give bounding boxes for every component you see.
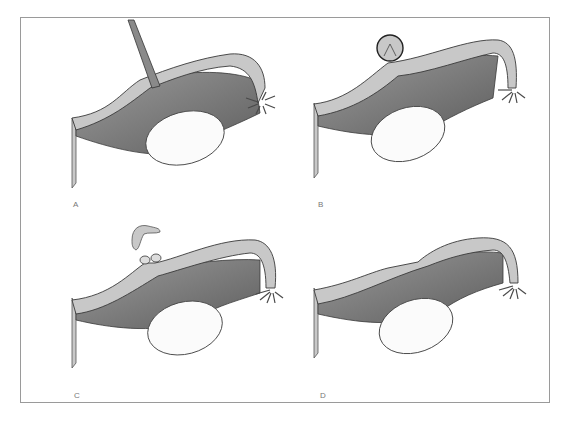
excised-segment-icon xyxy=(132,226,160,250)
tube-ovary-illustration-c xyxy=(60,218,290,388)
tube-ovary-illustration-a xyxy=(60,18,290,198)
panel-label-b: B xyxy=(318,200,323,209)
panel-d: D xyxy=(308,218,538,388)
ligature-loop-icon xyxy=(377,35,403,61)
panel-label-c: C xyxy=(74,391,80,400)
panel-a: A xyxy=(60,18,290,198)
panel-c: C xyxy=(60,218,290,388)
fimbria-icon xyxy=(498,90,525,103)
forceps-icon xyxy=(128,20,160,88)
tube-ovary-illustration-b xyxy=(308,18,538,198)
panel-b: B xyxy=(308,18,538,198)
panel-label-d: D xyxy=(320,391,326,400)
panel-label-a: A xyxy=(73,200,78,209)
fimbria-icon xyxy=(499,286,526,299)
tube-ovary-illustration-d xyxy=(308,218,538,388)
